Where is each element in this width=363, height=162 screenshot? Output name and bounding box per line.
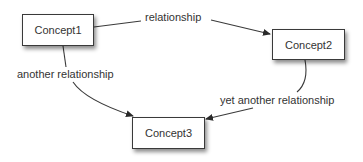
concept1-label: Concept1	[34, 24, 81, 36]
edge-concept1-concept3	[63, 46, 133, 116]
edge-label-another-relationship: another relationship	[17, 68, 114, 80]
concept3-label: Concept3	[145, 127, 192, 139]
concept2-node[interactable]: Concept2	[272, 29, 345, 60]
edge-concept2-concept3	[206, 60, 306, 119]
concept-map-canvas: Concept1 Concept2 Concept3 relationship …	[0, 0, 363, 162]
edge-label-yet-another-relationship: yet another relationship	[220, 94, 334, 106]
concept3-node[interactable]: Concept3	[132, 117, 205, 149]
edge-label-relationship: relationship	[145, 11, 201, 23]
concept2-label: Concept2	[285, 39, 332, 51]
concept1-node[interactable]: Concept1	[22, 14, 94, 46]
